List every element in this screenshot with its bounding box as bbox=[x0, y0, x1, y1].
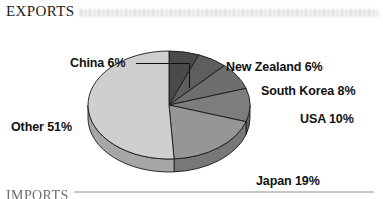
china-leader-line-horizontal bbox=[136, 63, 190, 64]
section-title-exports: EXPORTS bbox=[6, 3, 75, 20]
china-leader-line-vertical bbox=[189, 63, 190, 88]
pie-label-china: China 6% bbox=[70, 56, 125, 70]
bottom-divider bbox=[74, 191, 374, 193]
pie-label-usa: USA 10% bbox=[300, 112, 354, 126]
pie-label-new-zealand: New Zealand 6% bbox=[226, 60, 323, 74]
exports-pie-chart-figure: EXPORTS Other 51% China 6% New Zealand 6… bbox=[0, 0, 383, 199]
section-title-imports: IMPORTS bbox=[6, 188, 69, 199]
pie-chart-svg bbox=[0, 22, 383, 182]
pie-label-south-korea: South Korea 8% bbox=[261, 84, 355, 98]
blurred-scanned-text-icon bbox=[80, 9, 378, 17]
pie-chart-area: Other 51% China 6% New Zealand 6% South … bbox=[0, 22, 383, 182]
pie-label-japan: Japan 19% bbox=[256, 174, 320, 188]
pie-label-other: Other 51% bbox=[11, 120, 72, 134]
